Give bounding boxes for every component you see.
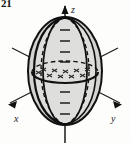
x-axis-label: x: [13, 113, 19, 124]
y-axis-label: y: [110, 113, 116, 124]
ellipsoid-diagram: x y z: [0, 0, 131, 143]
z-arrowhead: [62, 5, 69, 14]
axis-foreground: [100, 55, 120, 103]
figure-container: 21: [0, 0, 131, 143]
z-axis-label: z: [70, 4, 75, 15]
